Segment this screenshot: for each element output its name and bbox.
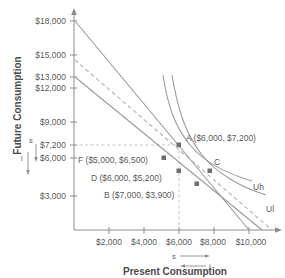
y-axis-tick-labels: $18,000 $15,000 $13,000 $12,000 $9,000 $… — [35, 16, 66, 201]
chart-svg: $18,000 $15,000 $13,000 $12,000 $9,000 $… — [0, 0, 285, 278]
x-axis — [74, 227, 282, 233]
annotation-saving-horizontal: s — [172, 252, 210, 261]
data-point-label-D: D ($6,000, $5,200) — [91, 173, 162, 183]
data-point-label-F: F ($5,000, $6,500) — [78, 155, 148, 165]
annotation-arrowhead-s-vertical — [34, 157, 38, 162]
data-point-marker-A — [177, 143, 182, 148]
x-axis-arrowhead — [275, 227, 282, 233]
x-tick-label-8000: $8,000 — [200, 237, 226, 247]
x-tick-label-2000: $2,000 — [96, 237, 122, 247]
annotation-arrowhead-i-vertical — [26, 170, 30, 175]
y-axis-arrowhead — [71, 8, 77, 15]
data-point-label-C: C — [214, 157, 220, 167]
annotation-interest-horizontal: i — [180, 262, 211, 271]
annotation-label-i-vertical: i — [21, 154, 23, 163]
data-point-label-A: A ($6,000, $7,200) — [186, 133, 256, 143]
x-tick-label-10000: $10,000 — [236, 237, 267, 247]
y-tick-label-3000: $3,000 — [40, 191, 66, 201]
data-point-marker-B — [195, 182, 200, 187]
x-axis-tick-labels: $2,000 $4,000 $6,000 $8,000 $10,000 — [96, 237, 267, 247]
y-tick-label-12000: $12,000 — [35, 83, 66, 93]
y-tick-label-18000: $18,000 — [35, 16, 66, 26]
curve-label-Uh: Uh — [253, 182, 264, 192]
annotation-arrowhead-s-horizontal — [205, 254, 210, 258]
x-tick-label-4000: $4,000 — [131, 237, 157, 247]
annotation-label-i-horizontal: i — [209, 262, 211, 271]
annotation-arrowhead-i-horizontal — [180, 264, 185, 268]
data-point-label-B: B ($7,000, $3,900) — [104, 190, 175, 200]
y-tick-label-15000: $15,000 — [35, 50, 66, 60]
data-point-marker-C — [208, 169, 213, 174]
y-tick-label-6000: $6,000 — [40, 153, 66, 163]
annotation-label-s-horizontal: s — [172, 252, 176, 261]
annotation-interest-vertical: i — [21, 152, 30, 175]
data-point-marker-F — [162, 156, 167, 161]
chart-container: Future Consumption Present Consumption $… — [0, 0, 285, 278]
y-axis — [71, 8, 77, 230]
annotation-label-s-vertical: s — [29, 136, 33, 145]
y-tick-label-13000: $13,000 — [35, 72, 66, 82]
annotation-saving-vertical: s — [29, 136, 38, 162]
y-tick-label-9000: $9,000 — [40, 117, 66, 127]
data-point-marker-D — [177, 169, 182, 174]
x-tick-label-6000: $6,000 — [166, 237, 192, 247]
y-tick-label-7200: $7,200 — [40, 140, 66, 150]
indifference-curve-high — [163, 75, 252, 181]
curve-label-Ul: Ul — [266, 204, 274, 214]
